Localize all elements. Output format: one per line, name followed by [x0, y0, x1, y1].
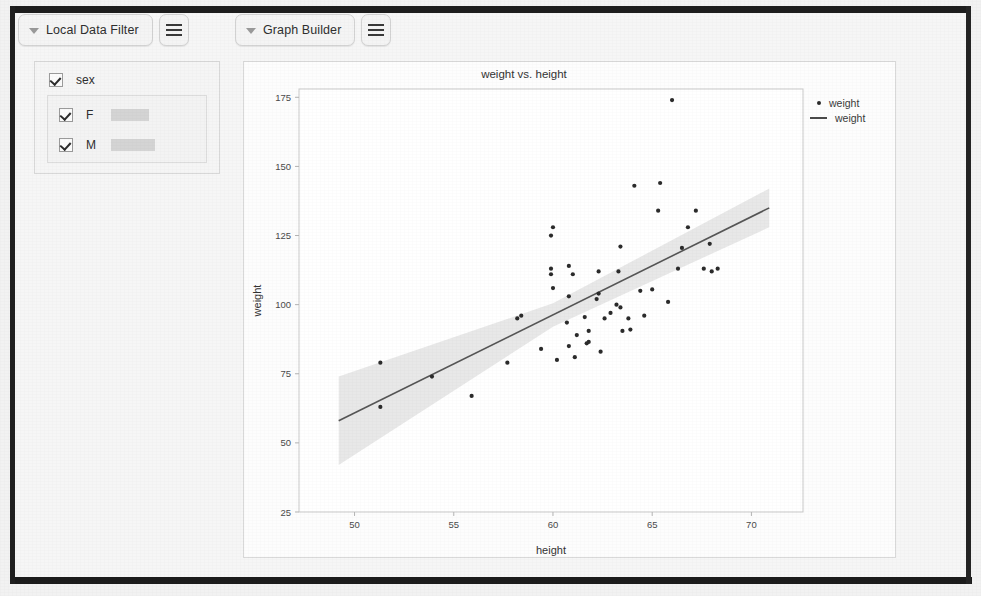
data-point: [670, 98, 674, 102]
data-point: [597, 291, 601, 295]
data-point: [378, 405, 382, 409]
data-point: [551, 286, 555, 290]
data-point: [676, 267, 680, 271]
data-point: [597, 269, 601, 273]
data-point: [567, 344, 571, 348]
graph-builder-chart-card: weight vs. height 2550751001251501755055…: [243, 61, 896, 558]
data-point: [618, 305, 622, 309]
y-tick-label: 50: [280, 437, 291, 448]
scatter-plot[interactable]: 2550751001251501755055606570heightweight: [244, 62, 897, 559]
data-point: [575, 333, 579, 337]
graph-builder-menu-icon[interactable]: [361, 14, 391, 46]
data-point: [618, 244, 622, 248]
chart-legend: weight weight: [810, 95, 894, 125]
y-tick-label: 75: [280, 368, 291, 379]
filter-variable-row[interactable]: sex: [49, 73, 95, 87]
data-point: [539, 347, 543, 351]
legend-label-points: weight: [829, 97, 859, 109]
filter-levels-list: F M: [47, 95, 207, 163]
filter-level-label-f: F: [86, 108, 98, 122]
data-point: [378, 361, 382, 365]
x-tick-label: 50: [349, 519, 360, 530]
data-point: [430, 374, 434, 378]
x-tick-label: 60: [548, 519, 559, 530]
data-point: [549, 267, 553, 271]
data-point: [599, 350, 603, 354]
data-point: [583, 315, 587, 319]
data-point: [656, 209, 660, 213]
data-point: [686, 225, 690, 229]
scan-border-left: [10, 6, 15, 584]
data-point: [632, 184, 636, 188]
data-point: [642, 314, 646, 318]
data-point: [567, 294, 571, 298]
data-point: [565, 321, 569, 325]
data-point: [567, 264, 571, 268]
data-point: [716, 267, 720, 271]
filter-level-row-f[interactable]: F: [59, 107, 149, 123]
data-point: [650, 287, 654, 291]
data-point: [694, 209, 698, 213]
data-point: [515, 316, 519, 320]
data-point: [549, 233, 553, 237]
legend-line-marker-icon: [810, 117, 827, 119]
x-tick-label: 70: [746, 519, 757, 530]
legend-entry-points[interactable]: weight: [810, 95, 894, 110]
graph-builder-group: Graph Builder: [235, 14, 391, 48]
x-tick-label: 65: [647, 519, 658, 530]
y-tick-label: 100: [275, 299, 291, 310]
x-axis-label: height: [536, 544, 566, 556]
data-point: [571, 272, 575, 276]
data-point: [549, 272, 553, 276]
data-point: [710, 269, 714, 273]
local-data-filter-label: Local Data Filter: [46, 23, 139, 37]
local-data-filter-menu-icon[interactable]: [159, 14, 189, 46]
scan-border-right: [966, 6, 971, 584]
data-point: [555, 358, 559, 362]
data-point: [666, 300, 670, 304]
filter-level-count-bar-f: [111, 109, 149, 121]
data-point: [614, 303, 618, 307]
triangle-down-icon: [29, 28, 39, 34]
graph-builder-button[interactable]: Graph Builder: [235, 14, 355, 46]
data-point: [505, 361, 509, 365]
data-point: [680, 246, 684, 250]
legend-label-line: weight: [835, 112, 865, 124]
graph-builder-label: Graph Builder: [263, 23, 341, 37]
data-point: [626, 316, 630, 320]
data-point: [638, 289, 642, 293]
local-data-filter-button[interactable]: Local Data Filter: [18, 14, 153, 46]
scan-border-top: [14, 6, 970, 13]
data-point: [628, 327, 632, 331]
data-point: [551, 225, 555, 229]
filter-level-count-bar-m: [111, 139, 155, 151]
plot-frame: [299, 89, 803, 512]
data-point: [708, 242, 712, 246]
data-point: [602, 316, 606, 320]
legend-entry-line[interactable]: weight: [810, 110, 894, 125]
legend-point-marker-icon: [817, 101, 821, 105]
data-point: [702, 267, 706, 271]
data-point: [616, 269, 620, 273]
filter-variable-checkbox[interactable]: [49, 73, 63, 87]
data-point: [595, 297, 599, 301]
data-point: [587, 329, 591, 333]
data-point: [587, 340, 591, 344]
filter-variable-label: sex: [76, 73, 95, 87]
y-tick-label: 150: [275, 161, 291, 172]
local-data-filter-panel: sex F M: [34, 61, 220, 174]
scan-border-bottom: [10, 577, 972, 584]
local-data-filter-group: Local Data Filter: [18, 14, 189, 48]
triangle-down-icon: [246, 28, 256, 34]
y-tick-label: 25: [280, 507, 291, 518]
filter-level-row-m[interactable]: M: [59, 137, 155, 153]
data-point: [519, 314, 523, 318]
filter-level-checkbox-f[interactable]: [59, 108, 73, 122]
data-point: [573, 355, 577, 359]
y-tick-label: 175: [275, 92, 291, 103]
data-point: [608, 311, 612, 315]
data-point: [470, 394, 474, 398]
filter-level-checkbox-m[interactable]: [59, 138, 73, 152]
toolbar: Local Data Filter Graph Builder: [18, 14, 438, 56]
y-axis-label: weight: [251, 285, 263, 318]
